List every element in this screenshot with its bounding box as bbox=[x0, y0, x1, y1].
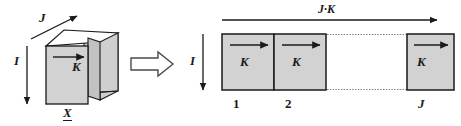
figure-container: J I K X J·K I K K K 1 2 J bbox=[0, 0, 461, 126]
slab-rect-J bbox=[407, 34, 454, 90]
label-slab-index-1: 1 bbox=[233, 97, 240, 110]
label-x-origin: X bbox=[63, 106, 72, 121]
implies-arrow-shape bbox=[131, 52, 173, 76]
label-k-slab-1: K bbox=[240, 55, 249, 68]
label-k-width-left: K bbox=[72, 60, 81, 73]
label-k-slab-J: K bbox=[417, 55, 426, 68]
label-slab-index-2: 2 bbox=[285, 97, 292, 110]
block-front-face bbox=[46, 46, 88, 104]
label-k-slab-2: K bbox=[292, 55, 301, 68]
block-front-slab-side bbox=[88, 38, 100, 100]
label-i-axis-right: I bbox=[190, 54, 195, 67]
label-i-axis-left: I bbox=[14, 54, 19, 67]
label-slab-index-J: J bbox=[418, 97, 425, 110]
label-total-width: J·K bbox=[318, 3, 335, 15]
label-j-axis-left: J bbox=[39, 11, 46, 24]
